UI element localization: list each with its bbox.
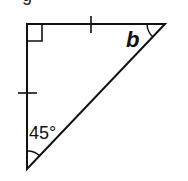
angle-arc-45 [27, 151, 40, 156]
right-angle-marker [27, 24, 42, 41]
triangle-diagram [0, 0, 188, 181]
angle-label-45: 45° [29, 123, 56, 144]
angle-label-b: b [126, 27, 139, 53]
angle-arc-b [147, 24, 153, 37]
triangle [27, 24, 165, 169]
cut-off-glyph: g [22, 0, 32, 6]
